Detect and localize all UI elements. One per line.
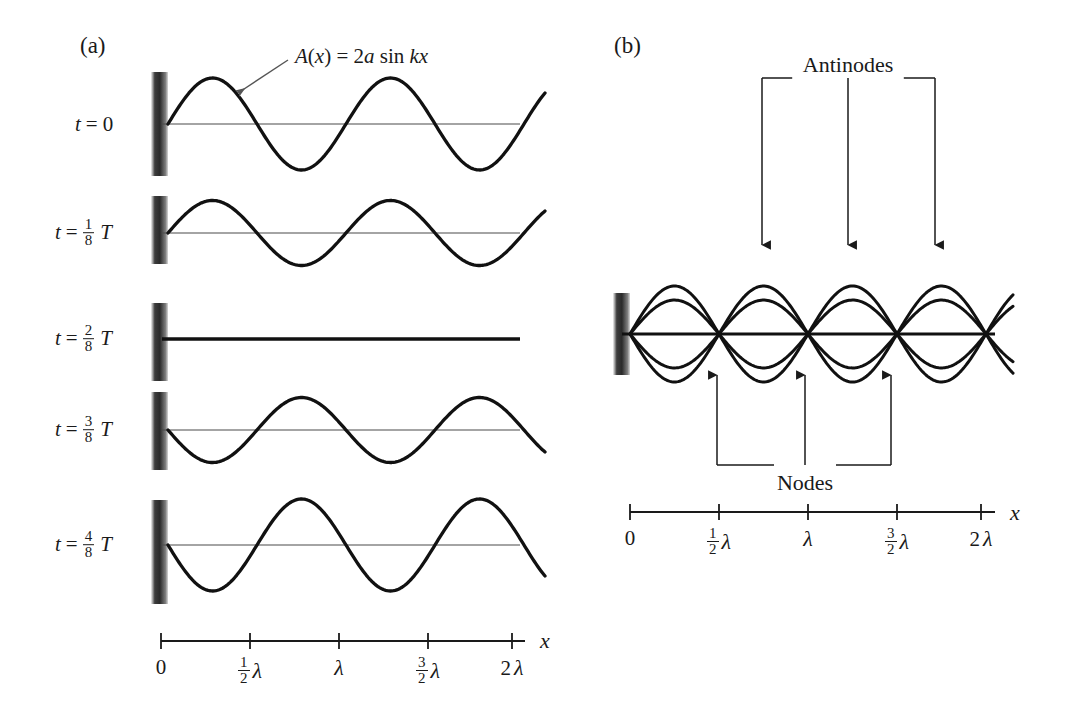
equation-callout-leader — [238, 60, 288, 93]
panel-a-row-t1_8 — [162, 200, 545, 265]
panel-a-row-t3_8 — [162, 397, 545, 462]
panel-a-wave-group — [162, 78, 545, 591]
panel-b-annotation-group — [717, 78, 935, 465]
panel-a-x-axis — [161, 633, 525, 649]
figure-root: (a) (b) t=0t=18Tt=28Tt=38Tt=48T 012λλ32λ… — [0, 0, 1069, 725]
panel-a-row-t0 — [162, 78, 545, 170]
figure-vector-layer — [0, 0, 1069, 725]
panel-b-x-axis — [630, 504, 995, 520]
panel-a-row-t4_8 — [162, 499, 545, 591]
callout-leader-line — [238, 60, 288, 93]
panel-b-wave-group — [622, 286, 1013, 382]
